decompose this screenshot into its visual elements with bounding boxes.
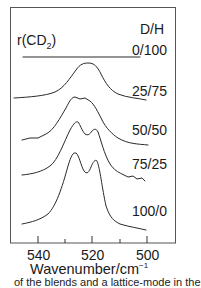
series-label-0-100: 0/100 [132,43,167,57]
trace-100-0 [22,153,146,230]
x-tick-label-540: 540 [27,248,50,262]
series-label-50-50: 50/50 [132,123,167,137]
series-label-100-0: 100/0 [132,204,167,218]
x-axis-ticks [38,236,147,243]
trace-50-50 [22,97,148,145]
x-axis-label-exponent: −1 [139,261,148,270]
x-tick-label-500: 500 [136,248,159,262]
traces [14,57,148,230]
x-axis-label-text: Wavenumber/cm [30,261,139,277]
x-tick-label-520: 520 [81,248,104,262]
inset-label: r(CD2) [17,33,56,51]
series-label-25-75: 25/75 [132,84,167,98]
inset-label-suffix: ) [52,32,57,48]
series-label-75-25: 75/25 [132,157,167,171]
caption-fragment: of the blends and a lattice-mode in the [14,277,201,288]
trace-75-25 [22,122,145,181]
legend-title: D/H [140,22,164,36]
inset-label-prefix: r(CD [17,32,47,48]
trace-25-75 [14,63,146,100]
x-axis-label: Wavenumber/cm−1 [30,262,148,277]
